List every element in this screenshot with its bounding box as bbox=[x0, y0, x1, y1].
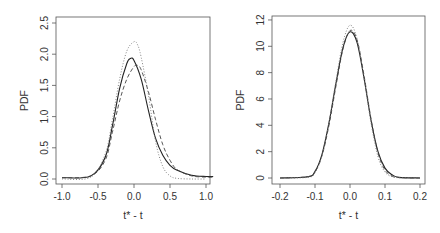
plot-panel-1: -1.0-0.50.00.51.00.00.51.01.52.02.5t* - … bbox=[18, 16, 213, 221]
y-tick-label: 0.5 bbox=[39, 140, 50, 154]
y-tick-label: 2.5 bbox=[39, 16, 50, 30]
series-solid-line bbox=[280, 32, 420, 178]
y-tick-label: 1.5 bbox=[39, 78, 50, 92]
x-tick-label: 1.0 bbox=[199, 191, 213, 202]
series-dotted-line bbox=[280, 25, 420, 178]
plot-frame bbox=[56, 17, 210, 184]
x-tick-label: -0.2 bbox=[271, 191, 289, 202]
y-tick-label: 4 bbox=[255, 122, 266, 128]
x-tick-label: -1.0 bbox=[53, 191, 71, 202]
y-tick-label: 0 bbox=[255, 175, 266, 181]
x-tick-label: 0.1 bbox=[378, 191, 392, 202]
y-tick-label: 2.0 bbox=[39, 47, 50, 61]
y-axis-label: PDF bbox=[234, 90, 246, 111]
y-tick-label: 1.0 bbox=[39, 109, 50, 123]
x-tick-label: 0.0 bbox=[127, 191, 141, 202]
series-dotted-line bbox=[62, 41, 206, 179]
x-tick-label: 0.0 bbox=[343, 191, 357, 202]
y-tick-label: 10 bbox=[255, 40, 266, 52]
plot-frame bbox=[272, 16, 425, 184]
y-tick-label: 8 bbox=[255, 69, 266, 75]
x-tick-label: -0.5 bbox=[89, 191, 107, 202]
series-dashed-line bbox=[280, 30, 420, 178]
plot-panel-2: -0.2-0.10.00.10.2024681012t* - tPDF bbox=[234, 14, 427, 221]
x-tick-label: -0.1 bbox=[306, 191, 324, 202]
x-axis-label: t* - t bbox=[123, 209, 142, 221]
series-dashed-line bbox=[62, 65, 213, 178]
x-axis-label: t* - t bbox=[339, 209, 358, 221]
y-tick-label: 0.0 bbox=[39, 172, 50, 186]
x-tick-label: 0.5 bbox=[163, 191, 177, 202]
series-solid-line bbox=[62, 58, 213, 178]
figure: -1.0-0.50.00.51.00.00.51.01.52.02.5t* - … bbox=[0, 0, 440, 233]
y-axis-label: PDF bbox=[18, 90, 30, 111]
y-tick-label: 6 bbox=[255, 96, 266, 102]
y-tick-label: 12 bbox=[255, 14, 266, 26]
y-tick-label: 2 bbox=[255, 148, 266, 154]
x-tick-label: 0.2 bbox=[413, 191, 427, 202]
